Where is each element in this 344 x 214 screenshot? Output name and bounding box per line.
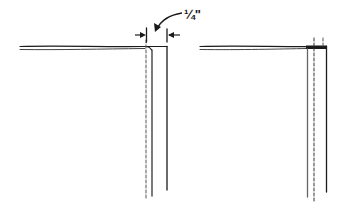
right-fabric-bottom-line xyxy=(200,49,307,50)
curved-arrow-shaft xyxy=(157,13,182,29)
arrow-left-pointing-icon xyxy=(168,32,174,38)
dimension-arrows xyxy=(135,32,180,38)
left-figure xyxy=(20,28,167,198)
seam-allowance-diagram: ¼" xyxy=(0,0,344,214)
dimension-label: ¼" xyxy=(184,7,201,22)
left-fabric-bottom-line xyxy=(20,49,145,50)
arrow-right-pointing-icon xyxy=(140,32,146,38)
right-folded-top xyxy=(306,46,327,50)
curved-pointer-arrow xyxy=(154,13,182,32)
right-figure xyxy=(200,38,327,201)
